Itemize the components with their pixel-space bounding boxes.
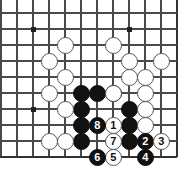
stone-move-number: 8 (94, 119, 100, 130)
stone-white (137, 101, 154, 118)
numbered-stone-black: 6 (89, 149, 106, 166)
stone-black (121, 117, 138, 134)
stone-white (41, 133, 58, 150)
stone-move-number: 3 (158, 135, 164, 146)
numbered-stone-black: 2 (137, 133, 154, 150)
stone-white (137, 117, 154, 134)
stone-white (57, 133, 74, 150)
stone-black (89, 85, 106, 102)
stone-white (105, 37, 122, 54)
stone-black (121, 133, 138, 150)
numbered-stone-black: 8 (89, 117, 106, 134)
stone-layer: 12345678 (0, 0, 184, 178)
stone-move-number: 7 (110, 135, 116, 146)
stone-black (121, 101, 138, 118)
stone-move-number: 2 (142, 135, 148, 146)
stone-white (137, 85, 154, 102)
stone-move-number: 1 (110, 119, 116, 130)
numbered-stone-white: 3 (153, 133, 170, 150)
stone-move-number: 5 (110, 151, 116, 162)
stone-white (57, 37, 74, 54)
stone-white (57, 69, 74, 86)
stone-white (153, 53, 170, 70)
numbered-stone-white: 1 (105, 117, 122, 134)
numbered-stone-white: 5 (105, 149, 122, 166)
stone-white (105, 85, 122, 102)
stone-black (73, 85, 90, 102)
stone-white (121, 53, 138, 70)
stone-move-number: 6 (94, 151, 100, 162)
stone-white (57, 101, 74, 118)
stone-white (41, 85, 58, 102)
numbered-stone-black: 4 (137, 149, 154, 166)
stone-move-number: 4 (142, 151, 148, 162)
stone-white (121, 69, 138, 86)
stone-black (73, 101, 90, 118)
stone-black (73, 133, 90, 150)
go-board-diagram: 12345678 (0, 0, 184, 178)
stone-white (41, 53, 58, 70)
stone-white (137, 69, 154, 86)
stone-black (73, 117, 90, 134)
numbered-stone-white: 7 (105, 133, 122, 150)
